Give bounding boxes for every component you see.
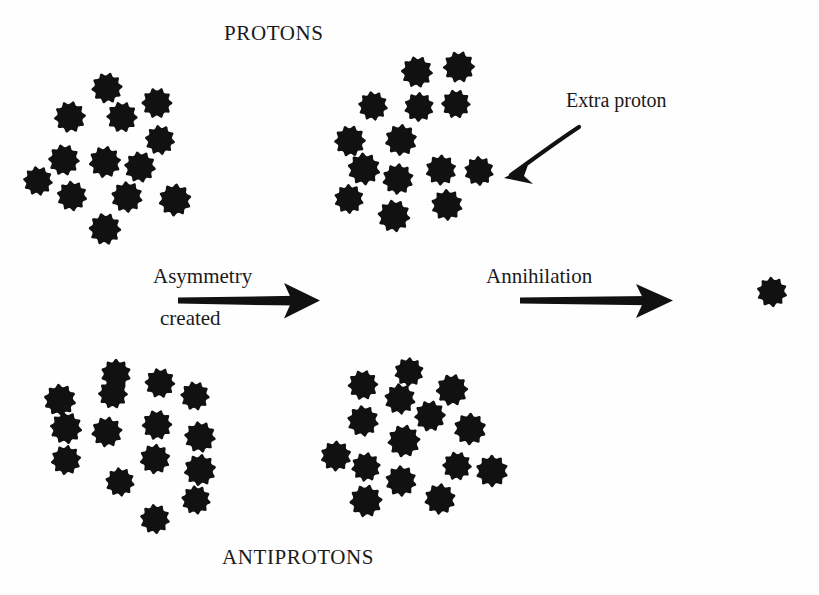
particle: [388, 425, 421, 457]
particle: [401, 56, 433, 87]
particle: [124, 151, 156, 182]
particle: [89, 146, 121, 178]
particle-cluster-antiprotons-second: [321, 357, 508, 517]
particle-cluster-surviving-proton: [757, 277, 787, 308]
particle: [54, 101, 86, 132]
extra-proton-pointer-icon: [504, 127, 579, 184]
particle: [426, 154, 456, 185]
particle: [351, 452, 380, 481]
particle: [102, 359, 131, 389]
particle: [142, 410, 173, 439]
particle: [348, 153, 380, 186]
diagram-canvas: PROTONS ANTIPROTONS Asymmetry created An…: [0, 0, 819, 595]
particle: [385, 124, 417, 156]
particle: [404, 92, 433, 122]
particle: [335, 184, 364, 214]
particle: [383, 163, 414, 194]
particle-clusters-layer: [0, 0, 819, 595]
particle: [44, 384, 76, 416]
particle: [436, 374, 468, 405]
particle: [105, 467, 134, 496]
particle: [358, 91, 388, 121]
particle: [442, 452, 471, 480]
particle: [180, 382, 209, 411]
particle: [140, 444, 170, 475]
particle: [348, 370, 379, 400]
particle: [347, 405, 378, 437]
particle: [145, 368, 176, 398]
protons-title-label: PROTONS: [224, 22, 324, 44]
particle: [92, 417, 123, 448]
particle: [142, 88, 173, 118]
particle: [98, 380, 128, 409]
arrows-layer: [0, 0, 819, 595]
particle: [106, 102, 137, 132]
particle: [414, 401, 446, 432]
particle: [350, 485, 383, 517]
particle: [184, 454, 216, 486]
particle: [50, 412, 82, 444]
antiprotons-title-label: ANTIPROTONS: [222, 546, 374, 568]
particle: [89, 213, 121, 244]
particle: [145, 125, 175, 155]
particle: [321, 440, 351, 471]
extra-proton-label: Extra proton: [566, 90, 667, 111]
particle: [454, 413, 486, 446]
particle: [464, 156, 493, 186]
particle: [23, 166, 53, 195]
particle: [425, 483, 456, 514]
particle-cluster-antiprotons-initial: [44, 359, 216, 534]
particle: [51, 445, 81, 475]
particle-cluster-protons-asymmetric: [334, 52, 493, 233]
particle: [441, 90, 470, 118]
particle: [57, 181, 87, 211]
particle: [385, 383, 416, 414]
particle: [111, 181, 142, 213]
particle: [757, 277, 787, 308]
particle: [432, 189, 463, 221]
particle: [386, 465, 417, 496]
annihilation-label: Annihilation: [486, 265, 592, 287]
particle: [181, 485, 210, 514]
particle: [140, 504, 170, 534]
particle: [91, 73, 122, 104]
particle: [378, 200, 411, 232]
particle: [159, 184, 191, 217]
particle: [334, 126, 366, 157]
particle-cluster-protons-initial: [23, 73, 191, 245]
annihilation-arrow: [520, 284, 673, 318]
particle: [48, 145, 80, 176]
asymmetry-label-line2: created: [160, 307, 221, 329]
particle: [476, 455, 507, 488]
particle: [395, 357, 424, 387]
particle: [184, 421, 215, 452]
asymmetry-label-line1: Asymmetry: [153, 265, 252, 287]
particle: [443, 52, 475, 83]
